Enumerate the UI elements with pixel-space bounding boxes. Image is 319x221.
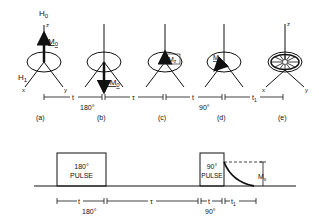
pulse-180: 180° PULSE	[57, 153, 106, 186]
svg-text:180°: 180°	[74, 163, 89, 170]
m0-label: M0	[48, 37, 59, 47]
fid-decay-curve: Mx	[224, 162, 267, 186]
panel-label-a: (a)	[36, 114, 45, 122]
pulse-sequence-diagram: H0 z M0 H1 x y -M0 Mz Mx z	[0, 0, 319, 221]
panel-c: Mz	[146, 24, 184, 87]
bottom-t-2: t	[208, 198, 210, 205]
svg-text:90°: 90°	[207, 163, 218, 170]
z-axis-label-e: z	[287, 21, 290, 27]
bottom-angle-90: 90°	[205, 208, 216, 215]
panel-d: Mx	[205, 24, 243, 87]
h0-label: H0	[39, 9, 49, 19]
x-axis-label: x	[22, 87, 25, 93]
top-angle-90: 90°	[199, 104, 210, 111]
z-axis-label: z	[46, 22, 49, 28]
bottom-tau: τ	[150, 198, 153, 205]
mx-label: Mx	[213, 54, 222, 62]
top-t-2: t	[192, 94, 194, 101]
bottom-angle-180: 180°	[82, 208, 97, 215]
minus-m0-label: -M0	[107, 78, 120, 88]
pulse-90: 90° PULSE	[200, 153, 224, 186]
top-timeline	[44, 94, 283, 100]
y-axis-label-e: y	[305, 87, 308, 93]
top-t-1: t	[72, 94, 74, 101]
bottom-t1: t1	[231, 198, 236, 207]
panel-b: -M0	[85, 24, 123, 92]
y-axis-label: y	[64, 87, 67, 93]
panel-label-b: (b)	[97, 114, 106, 122]
panel-label-e: (e)	[278, 114, 287, 122]
bottom-t-1: t	[78, 198, 80, 205]
top-t1: t1	[252, 94, 257, 103]
panel-e: z x y	[262, 21, 308, 93]
top-tau: τ	[132, 94, 135, 101]
x-axis-label-e: x	[262, 87, 265, 93]
panel-label-c: (c)	[158, 114, 166, 122]
svg-text:PULSE: PULSE	[70, 172, 93, 179]
panel-label-d: (d)	[217, 114, 226, 122]
svg-text:PULSE: PULSE	[201, 172, 223, 179]
top-angle-180: 180°	[80, 104, 95, 111]
panel-a: H0 z M0 H1 x y	[18, 9, 67, 93]
mx-signal-label: Mx	[258, 173, 267, 182]
bottom-timeline	[57, 198, 256, 204]
h1-label: H1	[18, 73, 28, 83]
mz-label: Mz	[168, 56, 177, 64]
